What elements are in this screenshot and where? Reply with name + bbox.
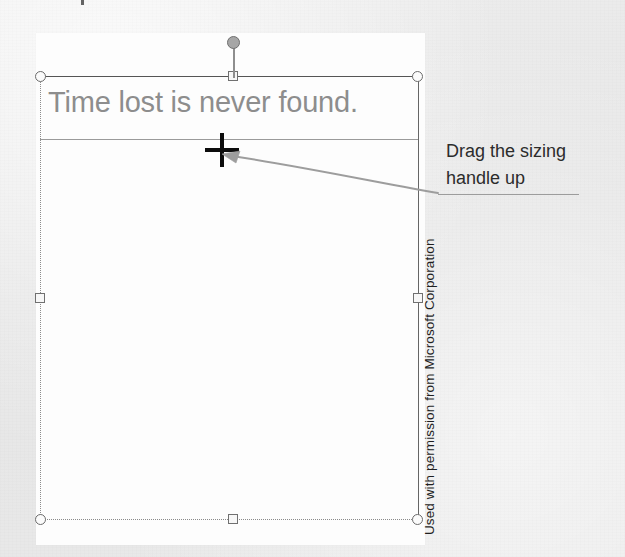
callout-line-1: Drag the sizing — [446, 138, 606, 165]
rotation-handle-stem — [233, 48, 235, 78]
callout-underline — [438, 194, 579, 195]
callout-label: Drag the sizing handle up — [446, 138, 606, 192]
scanned-figure-page: Time lost is never found. Drag the sizin… — [0, 0, 625, 557]
title-text: Time lost is never found. — [48, 84, 358, 120]
rotation-handle-icon[interactable] — [227, 36, 240, 49]
crosshair-vertical-bar — [220, 133, 225, 167]
handle-top-left[interactable] — [35, 71, 46, 82]
handle-bottom-left[interactable] — [35, 514, 46, 525]
slide-canvas[interactable]: Time lost is never found. — [36, 33, 425, 545]
rotation-handle-group[interactable] — [227, 36, 241, 78]
figure-credit-text: Used with permission from Microsoft Corp… — [422, 238, 437, 535]
handle-bottom-center[interactable] — [228, 514, 238, 524]
ink-speck-artifact — [81, 0, 84, 5]
callout-line-2: handle up — [446, 165, 606, 192]
title-textbox[interactable]: Time lost is never found. — [40, 76, 418, 140]
handle-top-right[interactable] — [412, 71, 423, 82]
handle-middle-left[interactable] — [35, 293, 45, 303]
crosshair-cursor-icon — [205, 133, 239, 167]
